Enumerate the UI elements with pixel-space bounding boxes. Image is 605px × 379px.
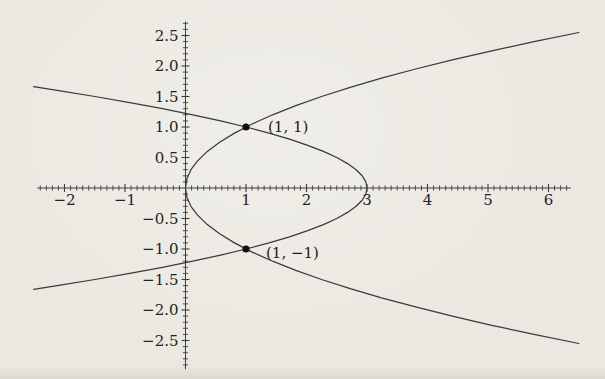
point-label: (1, −1)	[266, 244, 319, 262]
plot-canvas: −2−11234562.52.01.51.00.5−0.5−1.0−1.5−2.…	[0, 0, 605, 379]
x-tick-label: −2	[53, 191, 75, 209]
y-tick-label: −0.5	[142, 210, 178, 228]
y-tick-label: 2.0	[155, 57, 179, 75]
point-marker	[242, 123, 249, 130]
x-tick-label: 4	[423, 191, 433, 209]
figure-page: −2−11234562.52.01.51.00.5−0.5−1.0−1.5−2.…	[0, 0, 605, 379]
x-tick-label: −1	[114, 191, 136, 209]
y-tick-label: 2.5	[155, 27, 179, 45]
y-tick-label: −2.0	[142, 301, 178, 319]
x-tick-label: 5	[483, 191, 493, 209]
y-tick-label: −2.5	[142, 332, 178, 350]
x-tick-label: 6	[544, 191, 554, 209]
x-tick-label: 3	[362, 191, 372, 209]
y-tick-label: −1.5	[142, 271, 178, 289]
y-tick-label: −1.0	[142, 240, 178, 258]
x-tick-label: 2	[302, 191, 312, 209]
y-tick-label: 0.5	[155, 149, 179, 167]
x-tick-label: 1	[241, 191, 251, 209]
point-label: (1, 1)	[268, 118, 308, 136]
y-tick-label: 1.0	[155, 118, 179, 136]
point-marker	[242, 245, 249, 252]
y-tick-label: 1.5	[155, 88, 179, 106]
